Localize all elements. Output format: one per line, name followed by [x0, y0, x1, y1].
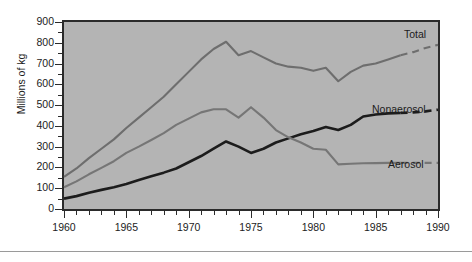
y-tick-major — [55, 209, 62, 210]
y-tick-label: 800 — [36, 37, 54, 47]
y-tick-major — [55, 188, 62, 189]
x-tick-label: 1960 — [44, 221, 84, 233]
y-tick-label: 700 — [36, 58, 54, 68]
x-tick-label: 1985 — [356, 221, 396, 233]
x-tick-label: 1975 — [231, 221, 271, 233]
x-tick-minor — [176, 211, 177, 215]
y-tick-minor — [58, 95, 62, 96]
x-tick-label: 1965 — [106, 221, 146, 233]
x-tick-label: 1970 — [169, 221, 209, 233]
y-tick-major — [55, 84, 62, 85]
x-tick-minor — [351, 211, 352, 215]
series-line-total — [64, 42, 401, 177]
series-label-aerosol: Aerosol — [388, 158, 424, 170]
y-tick-major — [55, 147, 62, 148]
x-tick-minor — [276, 211, 277, 215]
x-tick-minor — [338, 211, 339, 215]
x-tick-minor — [239, 211, 240, 215]
x-tick-minor — [326, 211, 327, 215]
series-label-total: Total — [404, 28, 426, 40]
y-tick-major — [55, 167, 62, 168]
y-tick-minor — [58, 74, 62, 75]
y-tick-label: 0 — [48, 203, 54, 213]
y-tick-label: 200 — [36, 161, 54, 171]
x-tick-major — [313, 211, 314, 218]
y-tick-major — [55, 105, 62, 106]
y-tick-minor — [58, 53, 62, 54]
chart-figure: 0100200300400500600700800900 Millions of… — [0, 0, 472, 262]
series-label-nonaerosol: Nonaerosol — [372, 103, 426, 115]
x-tick-minor — [226, 211, 227, 215]
y-tick-major — [55, 64, 62, 65]
x-tick-major — [251, 211, 252, 218]
x-tick-minor — [101, 211, 102, 215]
x-tick-label: 1990 — [418, 221, 458, 233]
x-tick-major — [64, 211, 65, 218]
x-tick-minor — [114, 211, 115, 215]
x-tick-minor — [288, 211, 289, 215]
x-tick-minor — [263, 211, 264, 215]
y-tick-label: 900 — [36, 16, 54, 26]
y-tick-label: 100 — [36, 182, 54, 192]
series-layer — [62, 20, 440, 211]
y-tick-major — [55, 43, 62, 44]
y-tick-minor — [58, 199, 62, 200]
x-tick-major — [438, 211, 439, 218]
x-tick-minor — [76, 211, 77, 215]
x-tick-minor — [139, 211, 140, 215]
x-tick-minor — [413, 211, 414, 215]
y-tick-label: 600 — [36, 78, 54, 88]
series-line-nonaerosol — [64, 113, 401, 199]
y-tick-label: 300 — [36, 141, 54, 151]
y-tick-label: 500 — [36, 99, 54, 109]
x-tick-minor — [201, 211, 202, 215]
y-tick-minor — [58, 157, 62, 158]
series-line-total-projected — [401, 45, 438, 55]
y-tick-minor — [58, 116, 62, 117]
y-tick-major — [55, 126, 62, 127]
x-tick-minor — [164, 211, 165, 215]
x-tick-minor — [214, 211, 215, 215]
series-line-aerosol — [64, 107, 401, 187]
x-tick-minor — [388, 211, 389, 215]
x-tick-major — [126, 211, 127, 218]
y-axis-title: Millions of kg — [15, 39, 27, 129]
x-tick-minor — [301, 211, 302, 215]
y-tick-minor — [58, 178, 62, 179]
x-tick-major — [189, 211, 190, 218]
x-tick-major — [376, 211, 377, 218]
x-tick-minor — [401, 211, 402, 215]
x-tick-minor — [426, 211, 427, 215]
x-tick-label: 1980 — [293, 221, 333, 233]
page-bottom-divider — [0, 251, 472, 252]
y-tick-minor — [58, 32, 62, 33]
line-series-svg — [62, 20, 440, 211]
y-tick-minor — [58, 136, 62, 137]
y-tick-label: 400 — [36, 120, 54, 130]
x-tick-minor — [151, 211, 152, 215]
x-tick-minor — [89, 211, 90, 215]
x-tick-minor — [363, 211, 364, 215]
y-tick-major — [55, 22, 62, 23]
